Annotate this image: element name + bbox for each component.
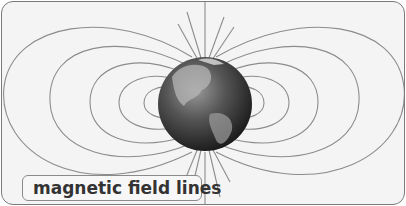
diagram-frame: magnetic field lines (1, 1, 405, 205)
caption-label-box: magnetic field lines (22, 175, 202, 201)
earth-globe (158, 57, 252, 151)
caption-label: magnetic field lines (33, 178, 221, 198)
